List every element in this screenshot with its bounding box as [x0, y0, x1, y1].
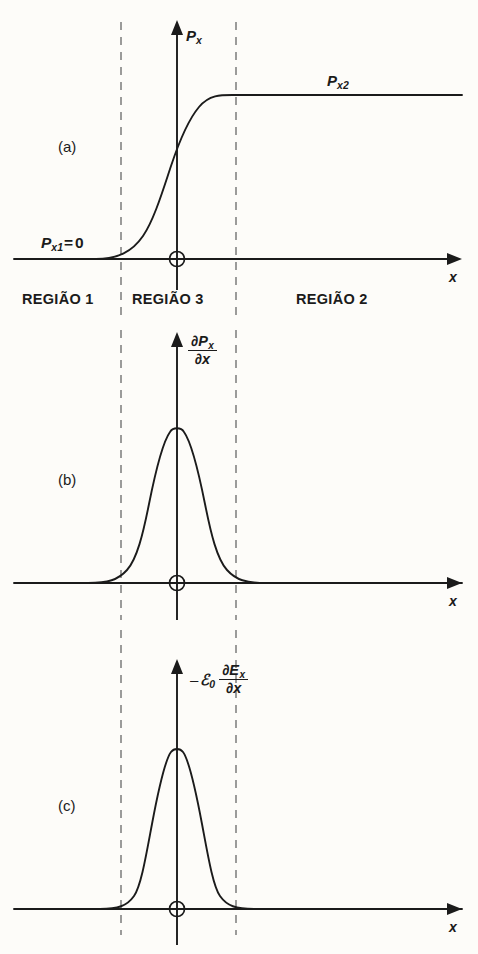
physics-figure: (a) Px Px2 Px1=0 x REGIÃO 1 REGIÃO 3 REG…: [0, 0, 478, 954]
panel-b-numerator-sub: x: [208, 340, 214, 351]
panel-b-x-axis-label: x: [449, 594, 457, 608]
panel-c-label-prefix: –ℰ0: [190, 672, 215, 687]
panel-c-numerator-sub: x: [239, 669, 245, 680]
panel-b-derivative-fraction: ∂Px ∂x: [188, 334, 217, 366]
panel-c-fraction-numerator: ∂Ex: [219, 663, 248, 679]
panel-a-baseline-value: 0: [74, 234, 85, 251]
panel-c-minus-sign: –: [190, 671, 200, 688]
panel-c-bell-curve: [14, 749, 462, 909]
panel-b-plot: [14, 332, 462, 620]
panel-c-fraction-denominator: ∂x: [219, 679, 248, 696]
panel-c-y-axis-arrowhead: [171, 659, 183, 674]
panel-b-bell-curve: [14, 428, 462, 583]
panel-b-tag: (b): [58, 472, 76, 487]
panel-a-plateau-label-base: P: [327, 72, 337, 89]
panel-a-y-axis-label-sub: x: [196, 34, 202, 46]
panel-a-y-axis-arrowhead: [171, 20, 183, 35]
panel-b-y-axis-arrowhead: [171, 332, 183, 347]
panel-b-y-axis-label: ∂Px ∂x: [188, 334, 217, 366]
region-label-3: REGIÃO 3: [132, 292, 204, 307]
panel-c-numerator-base: ∂E: [222, 662, 239, 678]
panel-a-plateau-label: Px2: [327, 73, 349, 88]
panel-c-permittivity-symbol: ℰ: [200, 671, 209, 688]
panel-a-x-axis-label: x: [449, 270, 457, 284]
panel-a-baseline-base: P: [41, 234, 51, 251]
panel-c-y-axis-label: –ℰ0 ∂Ex ∂x: [190, 663, 248, 695]
panel-a-plateau-label-sub: x2: [337, 79, 349, 91]
panel-a-baseline-relation: =: [63, 234, 74, 251]
panel-a-y-axis-label: Px: [186, 28, 202, 43]
panel-a-baseline-equation: Px1=0: [41, 235, 85, 251]
panel-a-baseline-sub: x1: [51, 241, 63, 253]
panel-a-x-axis-arrowhead: [447, 253, 462, 265]
panel-b-fraction-denominator: ∂x: [188, 350, 217, 367]
region-label-1: REGIÃO 1: [22, 292, 94, 307]
panel-a-y-axis-label-base: P: [186, 27, 196, 44]
panel-c-permittivity-sub: 0: [209, 678, 215, 690]
panel-c-x-axis-label: x: [449, 920, 457, 934]
panel-b-fraction-numerator: ∂Px: [188, 334, 217, 350]
panel-a-tag: (a): [58, 139, 76, 154]
panel-c-derivative-fraction: ∂Ex ∂x: [219, 663, 248, 695]
panel-c-plot: [14, 659, 462, 945]
panel-c-tag: (c): [58, 798, 76, 813]
region-label-2: REGIÃO 2: [296, 292, 368, 307]
panel-b-numerator-base: ∂P: [191, 333, 208, 349]
